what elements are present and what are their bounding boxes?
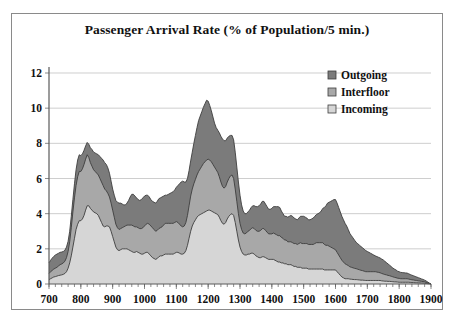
legend-label-outgoing: Outgoing (341, 69, 387, 82)
x-axis-label-1000: 1000 (133, 293, 156, 305)
x-axis-label-1900: 1900 (420, 293, 443, 305)
x-axis-label-1100: 1100 (165, 293, 188, 305)
chart-plot-area: 0246810127008009001000110012001300140015… (12, 14, 444, 311)
chart-frame: Passenger Arrival Rate (% of Population/… (11, 13, 443, 310)
legend-swatch-outgoing (328, 71, 336, 79)
y-axis-label-8: 8 (36, 137, 42, 149)
x-axis-label-1700: 1700 (356, 293, 379, 305)
y-axis-label-10: 10 (31, 102, 43, 114)
x-axis-label-1500: 1500 (292, 293, 315, 305)
legend-swatch-interfloor (328, 88, 336, 96)
y-axis-label-0: 0 (36, 278, 42, 290)
y-axis-label-12: 12 (31, 67, 43, 79)
y-axis-label-2: 2 (36, 243, 42, 255)
x-axis-label-1600: 1600 (324, 293, 347, 305)
x-axis-label-1800: 1800 (388, 293, 411, 305)
legend-label-interfloor: Interfloor (341, 86, 390, 98)
y-axis-label-6: 6 (36, 173, 42, 185)
x-axis-label-700: 700 (40, 293, 58, 305)
x-axis-label-1400: 1400 (260, 293, 283, 305)
legend-swatch-incoming (328, 105, 336, 113)
x-axis-label-1300: 1300 (229, 293, 252, 305)
x-axis-label-900: 900 (104, 293, 122, 305)
x-axis-label-800: 800 (72, 293, 90, 305)
chart-legend: OutgoingInterfloorIncoming (328, 69, 390, 116)
y-axis-label-4: 4 (36, 208, 42, 220)
stacked-area-chart: 0246810127008009001000110012001300140015… (12, 14, 444, 311)
x-axis-label-1200: 1200 (197, 293, 220, 305)
legend-label-incoming: Incoming (341, 103, 388, 116)
